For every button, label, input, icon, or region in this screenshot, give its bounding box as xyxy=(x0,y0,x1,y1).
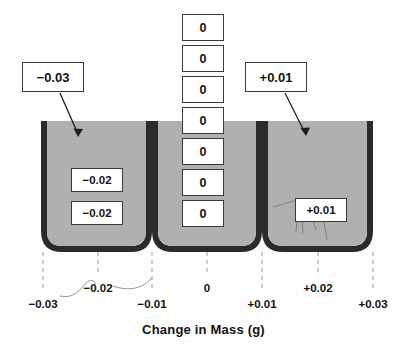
center-chip-6: 0 xyxy=(182,169,224,196)
center-chip-4: 0 xyxy=(182,107,224,134)
cup-right-rim xyxy=(367,121,373,127)
center-chip-6-label: 0 xyxy=(200,176,207,190)
center-chip-3: 0 xyxy=(182,76,224,103)
left-chip-1-label: −0.02 xyxy=(82,174,111,186)
center-chip-7-label: 0 xyxy=(200,207,207,221)
right-callout-box: +0.01 xyxy=(245,62,307,92)
left-chip-2-label: −0.02 xyxy=(82,207,111,219)
left-callout-label: −0.03 xyxy=(37,70,70,85)
tick-label-0: 0 xyxy=(204,282,210,294)
center-chip-7: 0 xyxy=(182,200,224,227)
center-chip-3-label: 0 xyxy=(200,83,207,97)
cup-left-rim xyxy=(41,121,47,127)
figure-container: −0.03 +0.01 0 0 0 0 0 0 0 −0.02 −0.02 +0… xyxy=(0,0,407,354)
center-chip-2: 0 xyxy=(182,45,224,72)
center-chip-4-label: 0 xyxy=(200,114,207,128)
center-chip-5: 0 xyxy=(182,138,224,165)
tick-label-p002: +0.02 xyxy=(303,282,332,294)
right-chip-1: +0.01 xyxy=(295,198,347,222)
center-chip-1: 0 xyxy=(182,14,224,41)
left-chip-1: −0.02 xyxy=(71,168,123,192)
tick-label-m001: −0.01 xyxy=(137,298,166,310)
center-chip-5-label: 0 xyxy=(200,145,207,159)
tick-label-p001: +0.01 xyxy=(247,298,276,310)
cup-right-fill xyxy=(268,121,367,246)
center-chip-2-label: 0 xyxy=(200,52,207,66)
left-chip-2: −0.02 xyxy=(71,201,123,225)
right-callout-label: +0.01 xyxy=(260,70,293,85)
tick-label-m002: −0.02 xyxy=(83,282,112,294)
left-callout-box: −0.03 xyxy=(22,62,84,92)
cup-right xyxy=(262,121,373,252)
tick-label-p003: +0.03 xyxy=(358,298,387,310)
right-chip-1-label: +0.01 xyxy=(306,204,335,216)
center-chip-1-label: 0 xyxy=(200,21,207,35)
tick-label-m003: −0.03 xyxy=(28,298,57,310)
axis-title: Change in Mass (g) xyxy=(0,322,407,337)
